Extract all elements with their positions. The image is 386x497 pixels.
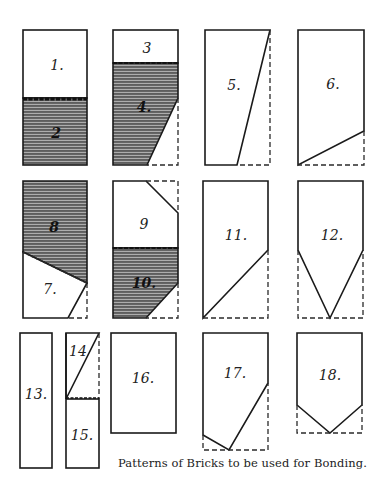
piece-17-label: 17. xyxy=(224,365,246,381)
brick-i: 13. xyxy=(20,333,52,468)
piece-5 xyxy=(205,30,270,165)
piece-6 xyxy=(298,30,364,165)
piece-13-label: 13. xyxy=(25,386,47,402)
brick-l: 17. xyxy=(203,333,268,450)
brick-h: 12. xyxy=(298,181,363,318)
piece-11 xyxy=(203,181,268,318)
piece-16-label: 16. xyxy=(132,370,154,386)
brick-k: 16. xyxy=(111,333,176,433)
piece-18 xyxy=(297,333,362,433)
piece-9 xyxy=(113,181,178,248)
piece-1-label: 1. xyxy=(50,57,63,73)
piece-2-label: 2 xyxy=(50,125,61,141)
piece-18-label: 18. xyxy=(319,367,341,383)
figure-caption: Patterns of Bricks to be used for Bondin… xyxy=(118,456,367,470)
brick-c: 5. xyxy=(205,30,270,165)
piece-3-label: 3 xyxy=(143,40,152,56)
piece-9-label: 9 xyxy=(140,216,149,232)
piece-4-label: 4. xyxy=(137,99,152,115)
piece-14-label: 14 xyxy=(69,343,87,359)
piece-12 xyxy=(298,181,363,318)
piece-8-label: 8 xyxy=(49,219,59,235)
piece-7-label: 7. xyxy=(43,281,56,297)
brick-e: 8 7. xyxy=(23,181,87,318)
piece-17 xyxy=(203,333,268,450)
piece-10-label: 10. xyxy=(132,275,156,291)
piece-11-label: 11. xyxy=(225,227,247,243)
piece-15-label: 15. xyxy=(71,427,93,443)
brick-b: 3 4. xyxy=(113,30,178,165)
piece-6-label: 6. xyxy=(326,76,339,92)
brick-f: 9 10. xyxy=(113,181,178,318)
brick-g: 11. xyxy=(203,181,268,318)
brick-j: 14 15. xyxy=(66,333,99,468)
brick-patterns-diagram: 1. 2 3 4. 5. 6. 8 7. 9 10. xyxy=(0,0,386,497)
brick-d: 6. xyxy=(298,30,364,165)
piece-5-label: 5. xyxy=(227,77,240,93)
piece-12-label: 12. xyxy=(321,227,343,243)
brick-m: 18. xyxy=(297,333,362,433)
brick-a: 1. 2 xyxy=(23,30,87,165)
